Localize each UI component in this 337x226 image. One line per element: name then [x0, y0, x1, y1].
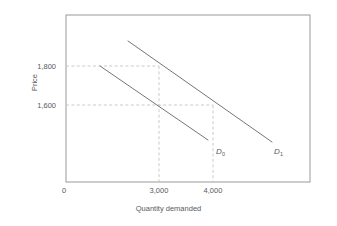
y-tick-1600: 1,600 — [12, 101, 56, 110]
demand-curve-d1 — [128, 41, 272, 142]
y-tick-1800: 1,800 — [12, 62, 56, 71]
x-tick-4000: 4,000 — [193, 186, 233, 195]
curve-label-d1: D1 — [274, 147, 283, 156]
curve-label-d0-subscript: 0 — [222, 151, 225, 157]
plot-frame — [66, 15, 310, 182]
curve-label-d0-letter: D — [216, 147, 222, 156]
curve-label-d1-subscript: 1 — [280, 151, 283, 157]
x-axis-title: Quantity demanded — [0, 204, 337, 213]
demand-curve-figure: Price 1,800 1,600 0 3,000 4,000 Quantity… — [0, 0, 337, 226]
demand-curve-d0 — [100, 66, 208, 140]
curve-label-d0: D0 — [216, 147, 225, 156]
curve-label-d1-letter: D — [274, 147, 280, 156]
x-tick-0: 0 — [44, 186, 84, 195]
x-tick-3000: 3,000 — [139, 186, 179, 195]
